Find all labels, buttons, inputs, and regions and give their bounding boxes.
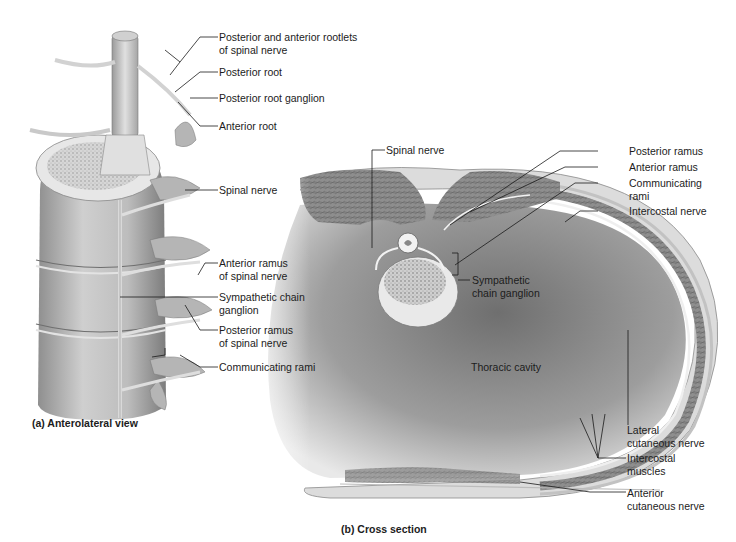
label-sympathetic-chain-ganglion-a: Sympathetic chain ganglion (219, 291, 305, 316)
anterolateral-illustration (30, 31, 212, 420)
label-intercostal-muscles: Intercostal muscles (627, 452, 675, 477)
label-lateral-cutaneous-nerve: Lateral cutaneous nerve (627, 424, 705, 449)
label-anterior-ramus-a: Anterior ramus of spinal nerve (219, 257, 288, 282)
anatomy-illustration (0, 0, 736, 542)
label-communicating-rami-b: Communicating rami (629, 177, 702, 202)
label-posterior-anterior-rootlets: Posterior and anterior rootlets of spina… (219, 31, 357, 56)
label-intercostal-nerve: Intercostal nerve (629, 205, 707, 218)
label-thoracic-cavity: Thoracic cavity (471, 361, 541, 374)
label-posterior-root: Posterior root (219, 66, 282, 79)
label-anterior-root: Anterior root (219, 120, 277, 133)
label-sympathetic-chain-ganglion-b: Sympathetic chain ganglion (472, 274, 540, 299)
label-communicating-rami-a: Communicating rami (219, 361, 315, 374)
caption-anterolateral-view: (a) Anterolateral view (32, 417, 138, 429)
label-posterior-root-ganglion: Posterior root ganglion (219, 92, 325, 105)
label-anterior-cutaneous-nerve: Anterior cutaneous nerve (627, 487, 705, 512)
caption-cross-section: (b) Cross section (341, 523, 427, 535)
label-posterior-ramus-a: Posterior ramus of spinal nerve (219, 324, 293, 349)
label-posterior-ramus-b: Posterior ramus (629, 145, 703, 158)
spinal-nerve-figure: Posterior and anterior rootlets of spina… (0, 0, 736, 542)
label-spinal-nerve-b: Spinal nerve (386, 144, 444, 157)
label-anterior-ramus-b: Anterior ramus (629, 161, 698, 174)
label-spinal-nerve-a: Spinal nerve (219, 184, 277, 197)
